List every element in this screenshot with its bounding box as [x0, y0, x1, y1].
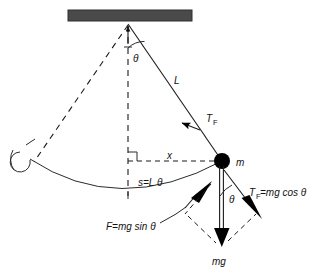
pendulum-string: [128, 24, 222, 161]
pendulum-bob: [214, 153, 230, 169]
restoring-force-label: F=mg sin θ: [106, 221, 156, 232]
parallelogram-dash-c: [228, 214, 256, 241]
swing-angle-tick: [26, 139, 35, 145]
theta-pivot-label: θ: [133, 53, 139, 64]
weight-label: mg: [212, 256, 226, 267]
tension-label: T: [206, 113, 213, 124]
tension-label-subscript: F: [213, 118, 218, 127]
theta-bob-label: θ: [229, 194, 235, 205]
arc-length-label: s=L θ: [138, 177, 163, 188]
parallelogram-dash-b: [188, 216, 216, 243]
tension-magnitude-label: T: [249, 187, 256, 198]
x-distance-label: x: [166, 150, 173, 161]
right-angle-marker: [128, 152, 137, 161]
swing-extreme-dashed-line: [34, 25, 128, 162]
ceiling-support: [68, 10, 192, 21]
swing-arc-path: [30, 159, 222, 189]
restoring-force-arrowhead: [191, 181, 212, 203]
weight-arrowhead: [214, 228, 230, 247]
restoring-force-leader: [160, 207, 186, 223]
tension-magnitude-rest: =mg cos θ: [260, 187, 307, 198]
mass-label: m: [236, 157, 244, 168]
length-label: L: [174, 75, 180, 86]
pendulum-diagram: θ L T F m x s=L θ F=mg sin θ θ T F =mg c…: [0, 0, 328, 275]
pendulum-figure: θ L T F m x s=L θ F=mg sin θ θ T F =mg c…: [0, 0, 328, 275]
